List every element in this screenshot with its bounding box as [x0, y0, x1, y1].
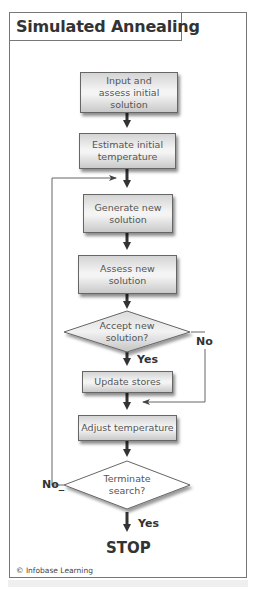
process-input-line2: assess initial solution — [99, 87, 160, 110]
process-input-line1: Input and — [106, 75, 152, 86]
process-update-label: Update stores — [94, 376, 160, 388]
accept-no-label: No — [196, 335, 213, 348]
terminate-yes-label: Yes — [138, 517, 159, 530]
process-assess: Assess newsolution — [78, 255, 177, 294]
terminate-no-label: No_ — [42, 478, 64, 491]
process-assess-line1: Assess new — [100, 263, 155, 274]
process-estimate-line1: Estimate initial — [92, 139, 163, 150]
decision-terminate-line2: search? — [109, 485, 146, 496]
process-generate-line2: solution — [109, 214, 147, 225]
terminal-stop: STOP — [106, 539, 151, 557]
process-assess-line2: solution — [109, 275, 147, 286]
process-adjust-label: Adjust temperature — [81, 422, 173, 434]
copyright-text: © Infobase Learning — [16, 566, 93, 575]
process-estimate-line2: temperature — [98, 151, 158, 162]
decision-accept-line2: solution? — [106, 332, 149, 343]
process-generate-line1: Generate new — [94, 202, 161, 213]
accept-yes-label: Yes — [137, 353, 158, 366]
process-input: Input andassess initial solution — [80, 72, 178, 113]
process-generate: Generate newsolution — [83, 194, 173, 233]
process-estimate: Estimate initialtemperature — [79, 133, 176, 169]
process-update: Update stores — [82, 371, 173, 393]
decision-terminate-text: Terminatesearch? — [77, 473, 177, 497]
decision-terminate-line1: Terminate — [103, 473, 150, 484]
process-adjust: Adjust temperature — [78, 415, 177, 441]
decision-accept-text: Accept newsolution? — [77, 320, 177, 344]
decision-accept-line1: Accept new — [99, 320, 154, 331]
